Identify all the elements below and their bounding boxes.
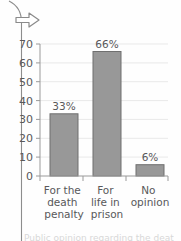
x-category-labels: For the death penalty For life in prison…: [44, 184, 170, 220]
bar-data-label: 33%: [52, 100, 75, 112]
bar-chart: 70 60 50 40 30 20 10 0: [0, 36, 181, 232]
bar-data-label: 66%: [95, 38, 118, 50]
bar-for-life-in-prison[interactable]: [93, 52, 121, 177]
cat-line: No: [141, 184, 155, 196]
bar-chart-svg: 70 60 50 40 30 20 10 0: [0, 36, 181, 232]
figure-page: 70 60 50 40 30 20 10 0: [0, 0, 181, 241]
x-category-label-for-life-in-prison: For life in prison: [91, 184, 123, 220]
y-tick-label: 40: [19, 95, 33, 108]
y-tick-label: 60: [19, 57, 33, 70]
y-tick-label: 20: [19, 132, 33, 145]
y-tick-label: 30: [19, 113, 33, 126]
y-tick-labels: 70 60 50 40 30 20 10 0: [19, 38, 33, 183]
cat-line: life in: [91, 196, 120, 208]
figure-caption: Public opinion regarding the death penal…: [24, 234, 174, 241]
arrow-right-icon: [14, 9, 42, 31]
cat-line: For: [97, 184, 114, 196]
y-tick-label: 70: [19, 38, 33, 51]
bar-no-opinion[interactable]: [136, 165, 164, 176]
bar-for-the-death-penalty[interactable]: [50, 114, 78, 176]
cat-line: opinion: [131, 196, 170, 208]
y-tick-label: 10: [19, 151, 33, 164]
bar-data-label: 6%: [142, 151, 159, 163]
x-axis: [40, 176, 168, 181]
y-tick-label: 50: [19, 76, 33, 89]
x-category-label-for-the-death-penalty: For the death penalty: [44, 184, 84, 220]
cat-line: For the: [44, 184, 81, 196]
y-axis: [36, 44, 40, 176]
y-tick-label: 0: [26, 170, 33, 183]
cat-line: death: [47, 196, 77, 208]
x-category-label-no-opinion: No opinion: [131, 184, 170, 208]
cat-line: penalty: [44, 208, 83, 220]
cat-line: prison: [91, 208, 123, 220]
